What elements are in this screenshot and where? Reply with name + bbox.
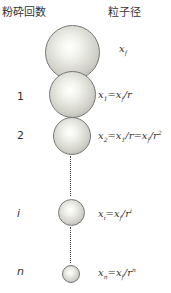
sphere-2 xyxy=(53,117,91,155)
sphere-1 xyxy=(49,71,96,118)
count-n: n xyxy=(17,265,24,278)
ellipsis-dots-1 xyxy=(70,156,71,196)
count-2: 2 xyxy=(17,129,24,142)
formula-i: xi=xf/ri xyxy=(98,207,132,221)
header-particle-diameter: 粒子径 xyxy=(108,3,141,19)
formula-1: x1=xf/r xyxy=(98,89,132,102)
formula-2: x2=x1/r=xf/r2 xyxy=(98,129,162,143)
ellipsis-dots-2 xyxy=(70,227,71,263)
count-i: i xyxy=(17,207,20,220)
count-1: 1 xyxy=(17,90,24,103)
formula-initial: xf xyxy=(119,43,127,56)
sphere-n xyxy=(62,265,80,283)
sphere-i xyxy=(58,199,85,226)
header-crushing-count: 粉砕回数 xyxy=(2,3,46,19)
formula-n: xn=xf/rn xyxy=(98,266,136,280)
